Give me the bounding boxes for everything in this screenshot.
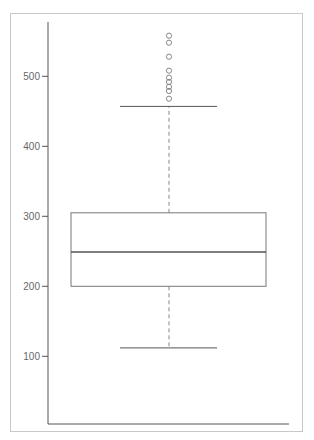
box-plot: 100200300400500 xyxy=(0,0,314,440)
outlier-point xyxy=(166,68,171,73)
iqr-box xyxy=(71,213,266,286)
y-axis-ticks: 100200300400500 xyxy=(23,71,48,362)
y-tick-label: 400 xyxy=(23,141,40,152)
y-tick-label: 100 xyxy=(23,351,40,362)
outlier-point xyxy=(166,33,171,38)
box-plot-body xyxy=(71,33,266,348)
outlier-point xyxy=(166,96,171,101)
outlier-point xyxy=(166,40,171,45)
y-tick-label: 300 xyxy=(23,211,40,222)
outlier-point xyxy=(166,54,171,59)
y-tick-label: 500 xyxy=(23,71,40,82)
y-tick-label: 200 xyxy=(23,281,40,292)
